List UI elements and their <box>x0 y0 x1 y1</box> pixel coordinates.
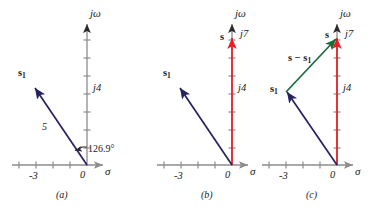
panel-c-caption: (c) <box>306 190 317 200</box>
panel-a-vector-s1-label: s1 <box>18 68 26 79</box>
panel-c-y-tick-j7: j7 <box>345 29 353 40</box>
panel-b-vector-s1-label: s1 <box>163 68 171 79</box>
panel-c-vector-s-minus-s1 <box>286 39 336 92</box>
panel-b-caption: (b) <box>201 190 213 200</box>
panel-b-y-axis-label: jω <box>235 8 246 19</box>
panel-a-magnitude-label: 5 <box>42 122 47 132</box>
figure-container: jω σ -3 j4 0 s1 5 126.9° (a) jω σ -3 j4 … <box>0 0 380 215</box>
panel-c-vector-s1 <box>287 92 337 165</box>
panel-c-axes <box>262 24 353 169</box>
panel-c-x-tick-minus3: -3 <box>279 171 288 182</box>
panel-b-vector-s1-subscript: 1 <box>167 71 171 80</box>
panel-a-origin-label: 0 <box>80 170 85 181</box>
panel-b-origin-label: 0 <box>225 170 230 181</box>
panel-c-y-axis-label: jω <box>340 8 351 19</box>
panel-b-vector-s1 <box>180 88 232 165</box>
panel-a-caption: (a) <box>56 190 68 200</box>
panel-c-x-axis-label: σ <box>355 166 360 177</box>
panel-c-origin-label: 0 <box>330 170 335 181</box>
panel-c-vector-diff-subscript: 1 <box>307 56 311 65</box>
panel-b-y-tick-j7: j7 <box>240 29 248 40</box>
panel-a-x-tick-minus3: -3 <box>29 171 38 182</box>
panel-c-y-tick-j4: j4 <box>343 83 351 94</box>
panel-c-vector-s1-label: s1 <box>270 84 278 95</box>
panel-a-angle-label: 126.9° <box>88 144 115 154</box>
panel-a-y-tick-j4: j4 <box>93 83 101 94</box>
panel-c-vector-s1-subscript: 1 <box>274 87 278 96</box>
panel-b-vector-s-label: s <box>220 32 224 43</box>
figure-svg <box>0 0 380 215</box>
panel-a-x-axis-label: σ <box>105 166 110 177</box>
panel-b-x-axis-label: σ <box>250 166 255 177</box>
panel-b-y-tick-j4: j4 <box>238 83 246 94</box>
panel-c-vector-diff-symbol: s − s <box>288 52 307 63</box>
panel-c-vector-diff-label: s − s1 <box>288 53 311 64</box>
panel-a-y-axis-label: jω <box>90 8 101 19</box>
panel-a-vector-s1-subscript: 1 <box>22 71 26 80</box>
panel-b-x-tick-minus3: -3 <box>174 171 183 182</box>
panel-b-axes <box>157 24 248 169</box>
panel-c-vector-s-label: s <box>325 30 329 41</box>
